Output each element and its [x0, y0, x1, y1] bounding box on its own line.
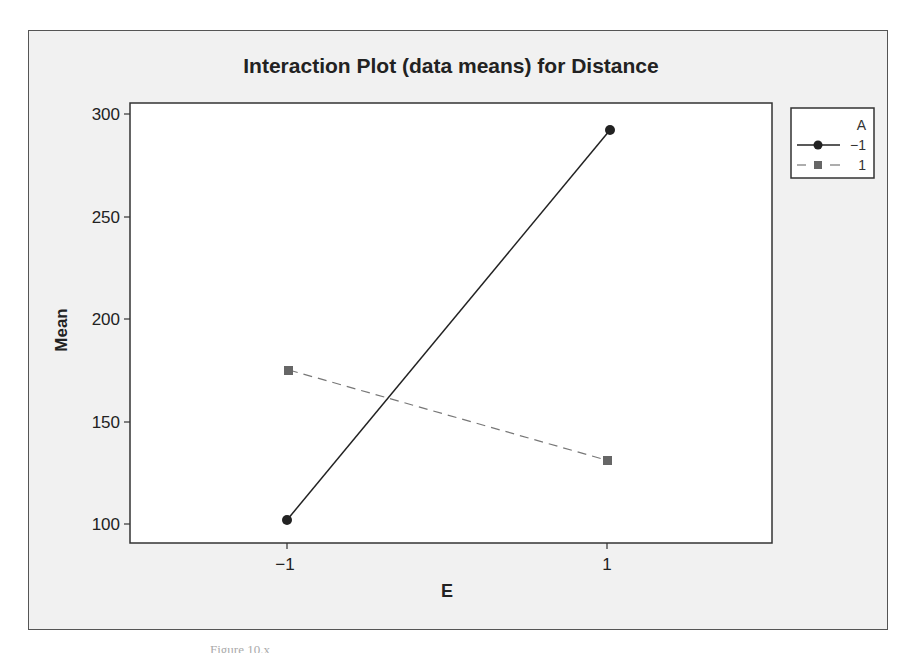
legend-entry: 1 — [858, 157, 866, 173]
figure-caption: Figure 10.x — [210, 642, 510, 653]
legend-title: A — [857, 117, 867, 133]
y-axis-label: Mean — [52, 308, 71, 351]
legend-circle-icon — [814, 141, 823, 150]
x-axis — [287, 543, 607, 549]
legend-entry: −1 — [850, 137, 866, 153]
legend-square-icon — [814, 161, 822, 169]
y-tick-label: 200 — [92, 310, 120, 329]
y-tick-label: 250 — [92, 208, 120, 227]
x-tick-label: −1 — [275, 555, 294, 574]
y-tick-label: 100 — [92, 515, 120, 534]
circle-marker — [282, 515, 292, 525]
circle-marker — [605, 125, 615, 135]
square-marker — [284, 366, 293, 375]
x-axis-label: E — [441, 581, 453, 601]
chart-svg: 300 250 200 150 100 Mean −1 1 E A −1 1 — [0, 0, 915, 653]
legend: A −1 1 — [791, 108, 874, 178]
y-axis — [124, 114, 130, 524]
y-tick-label: 300 — [92, 105, 120, 124]
x-tick-label: 1 — [602, 555, 611, 574]
y-tick-label: 150 — [92, 413, 120, 432]
square-marker — [603, 456, 612, 465]
